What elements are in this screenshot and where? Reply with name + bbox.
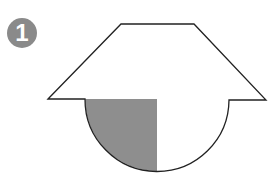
- geometry-figure: [0, 0, 275, 181]
- shaded-quarter-region: [85, 99, 157, 171]
